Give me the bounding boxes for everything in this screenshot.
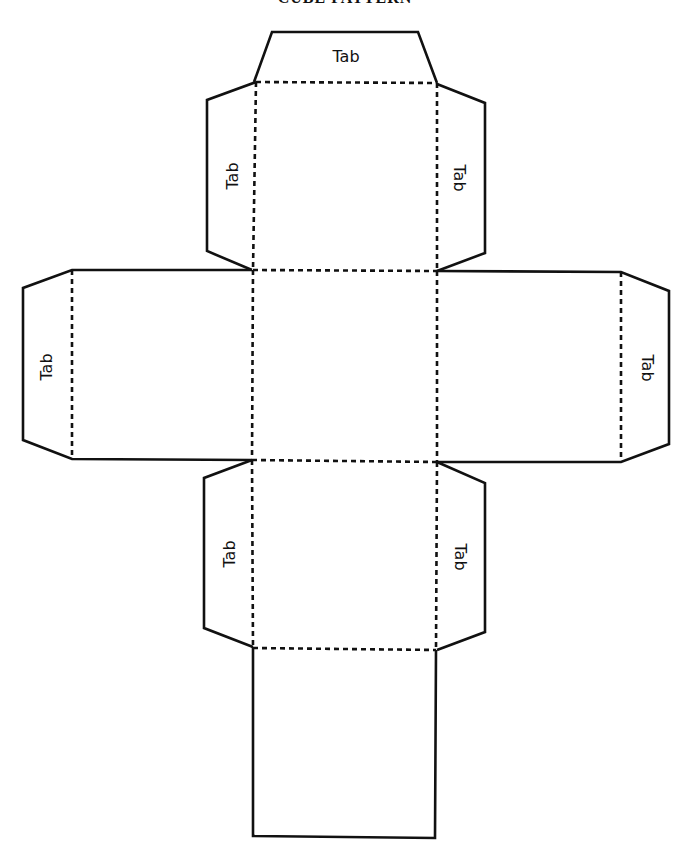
fold-line: [253, 82, 256, 270]
left-face-outline: [23, 270, 252, 460]
fold-line: [436, 462, 437, 650]
lower-right-tab-label: Tab: [451, 542, 470, 570]
upper-left-tab-label: Tab: [223, 162, 242, 190]
fold-line: [252, 460, 253, 647]
lower-left-tab-label: Tab: [220, 540, 239, 568]
cube-net-diagram: Tab Tab Tab Tab Tab Tab Tab: [0, 0, 690, 855]
upper-right-tab-label: Tab: [450, 163, 469, 191]
bottom-face-outline: [253, 647, 436, 838]
right-face-tab-label: Tab: [638, 353, 657, 381]
left-face-tab-label: Tab: [37, 353, 56, 381]
top-tab-label: Tab: [331, 47, 359, 66]
fold-line: [256, 82, 437, 83]
right-face-outline: [437, 271, 669, 462]
fold-line: [253, 270, 437, 271]
fold-line: [252, 460, 437, 462]
fold-line: [253, 648, 436, 650]
fold-line: [252, 270, 253, 460]
